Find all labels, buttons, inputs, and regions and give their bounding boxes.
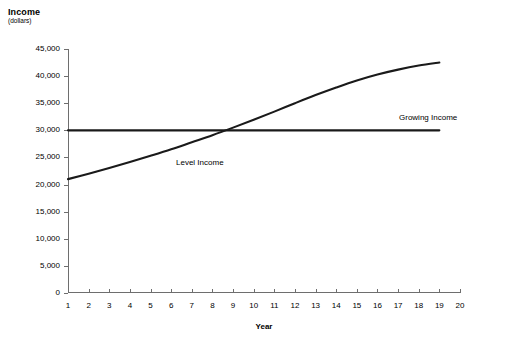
y-tick-label: 0 <box>2 288 60 297</box>
x-tick-label: 20 <box>449 301 471 310</box>
series-label-level-income: Level Income <box>176 158 224 167</box>
x-tick-label: 19 <box>428 301 450 310</box>
y-tick-label: 45,000 <box>2 44 60 53</box>
y-tick-label: 15,000 <box>2 207 60 216</box>
x-tick-label: 16 <box>366 301 388 310</box>
x-axis-title: Year <box>68 322 460 331</box>
x-tick-label: 9 <box>222 301 244 310</box>
x-tick-label: 13 <box>305 301 327 310</box>
x-tick-label: 18 <box>408 301 430 310</box>
y-tick-label: 5,000 <box>2 261 60 270</box>
series-line-growing-income <box>68 63 439 180</box>
x-tick-label: 4 <box>119 301 141 310</box>
y-axis-title-units: (dollars) <box>8 18 40 25</box>
x-tick-label: 7 <box>181 301 203 310</box>
y-tick-label: 30,000 <box>2 125 60 134</box>
x-tick-label: 17 <box>387 301 409 310</box>
x-tick-label: 6 <box>160 301 182 310</box>
income-comparison-chart: Income (dollars) 05,00010,00015,00020,00… <box>0 0 506 340</box>
y-tick-label: 20,000 <box>2 180 60 189</box>
x-tick-label: 5 <box>140 301 162 310</box>
y-tick-mark <box>64 293 68 294</box>
x-tick-label: 11 <box>263 301 285 310</box>
series-lines <box>68 49 460 293</box>
x-tick-mark <box>460 289 461 293</box>
y-tick-label: 10,000 <box>2 234 60 243</box>
series-label-growing-income: Growing Income <box>399 113 457 122</box>
y-tick-label: 35,000 <box>2 98 60 107</box>
y-tick-label: 40,000 <box>2 71 60 80</box>
x-tick-label: 3 <box>98 301 120 310</box>
x-tick-label: 8 <box>201 301 223 310</box>
y-tick-label: 25,000 <box>2 152 60 161</box>
x-tick-label: 2 <box>78 301 100 310</box>
x-tick-label: 14 <box>325 301 347 310</box>
plot-area: 05,00010,00015,00020,00025,00030,00035,0… <box>68 49 460 293</box>
x-tick-label: 10 <box>243 301 265 310</box>
x-tick-label: 1 <box>57 301 79 310</box>
y-axis-title: Income (dollars) <box>8 8 40 25</box>
x-tick-label: 12 <box>284 301 306 310</box>
x-tick-label: 15 <box>346 301 368 310</box>
y-axis-title-main: Income <box>8 8 40 17</box>
